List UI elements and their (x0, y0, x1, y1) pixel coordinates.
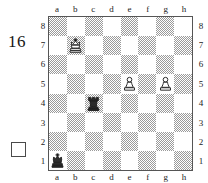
square-f1[interactable] (138, 151, 156, 170)
white-pawn[interactable] (121, 75, 138, 92)
square-h7[interactable] (174, 36, 192, 55)
rank-label-left-8: 8 (38, 21, 48, 31)
file-label-top-a: a (48, 4, 66, 14)
square-e4[interactable] (121, 94, 139, 113)
square-g6[interactable] (156, 55, 174, 74)
square-e1[interactable] (121, 151, 139, 170)
square-b1[interactable] (67, 151, 85, 170)
square-g8[interactable] (156, 17, 174, 36)
square-a2[interactable] (49, 132, 67, 151)
square-f8[interactable] (138, 17, 156, 36)
square-f3[interactable] (138, 113, 156, 132)
square-b6[interactable] (67, 55, 85, 74)
black-rook[interactable] (85, 95, 102, 112)
file-label-top-g: g (157, 4, 175, 14)
square-e2[interactable] (121, 132, 139, 151)
file-label-bottom-h: h (175, 172, 193, 182)
board-grid (49, 17, 192, 170)
rank-label-left-5: 5 (38, 79, 48, 89)
file-label-top-b: b (66, 4, 84, 14)
white-king[interactable] (67, 37, 84, 54)
square-c5[interactable] (85, 74, 103, 93)
file-label-bottom-e: e (121, 172, 139, 182)
rank-label-left-3: 3 (38, 118, 48, 128)
square-b3[interactable] (67, 113, 85, 132)
rank-label-right-1: 1 (196, 156, 206, 166)
file-label-bottom-f: f (139, 172, 157, 182)
file-label-top-h: h (175, 4, 193, 14)
square-h8[interactable] (174, 17, 192, 36)
square-a7[interactable] (49, 36, 67, 55)
square-g4[interactable] (156, 94, 174, 113)
square-c1[interactable] (85, 151, 103, 170)
file-labels-bottom: abcdefgh (48, 172, 193, 183)
rank-labels-left: 87654321 (38, 16, 48, 171)
square-f6[interactable] (138, 55, 156, 74)
rank-label-right-7: 7 (196, 40, 206, 50)
file-label-top-d: d (102, 4, 120, 14)
square-a4[interactable] (49, 94, 67, 113)
square-b4[interactable] (67, 94, 85, 113)
file-label-bottom-g: g (157, 172, 175, 182)
square-f2[interactable] (138, 132, 156, 151)
black-king[interactable] (49, 152, 66, 169)
square-c8[interactable] (85, 17, 103, 36)
square-d7[interactable] (103, 36, 121, 55)
rank-label-left-1: 1 (38, 156, 48, 166)
rank-label-left-7: 7 (38, 40, 48, 50)
square-a6[interactable] (49, 55, 67, 74)
square-d3[interactable] (103, 113, 121, 132)
square-b5[interactable] (67, 74, 85, 93)
rank-labels-right: 87654321 (196, 16, 206, 171)
square-f4[interactable] (138, 94, 156, 113)
square-g1[interactable] (156, 151, 174, 170)
rank-label-right-4: 4 (196, 98, 206, 108)
rank-label-right-6: 6 (196, 59, 206, 69)
square-h2[interactable] (174, 132, 192, 151)
square-g7[interactable] (156, 36, 174, 55)
square-a5[interactable] (49, 74, 67, 93)
square-c7[interactable] (85, 36, 103, 55)
square-g3[interactable] (156, 113, 174, 132)
square-c6[interactable] (85, 55, 103, 74)
square-h4[interactable] (174, 94, 192, 113)
chess-diagram: 16 abcdefgh abcdefgh 87654321 87654321 (0, 0, 208, 183)
square-b7[interactable] (67, 36, 85, 55)
square-c2[interactable] (85, 132, 103, 151)
square-b2[interactable] (67, 132, 85, 151)
square-e7[interactable] (121, 36, 139, 55)
square-f7[interactable] (138, 36, 156, 55)
square-d2[interactable] (103, 132, 121, 151)
square-d4[interactable] (103, 94, 121, 113)
chessboard (48, 16, 193, 171)
square-g5[interactable] (156, 74, 174, 93)
file-labels-top: abcdefgh (48, 4, 193, 15)
square-h6[interactable] (174, 55, 192, 74)
square-d8[interactable] (103, 17, 121, 36)
rank-label-right-8: 8 (196, 21, 206, 31)
square-f5[interactable] (138, 74, 156, 93)
square-e6[interactable] (121, 55, 139, 74)
square-a8[interactable] (49, 17, 67, 36)
diagram-number: 16 (8, 32, 42, 52)
white-pawn[interactable] (157, 75, 174, 92)
square-h1[interactable] (174, 151, 192, 170)
square-d6[interactable] (103, 55, 121, 74)
square-c3[interactable] (85, 113, 103, 132)
square-d1[interactable] (103, 151, 121, 170)
square-a3[interactable] (49, 113, 67, 132)
square-e5[interactable] (121, 74, 139, 93)
file-label-top-e: e (121, 4, 139, 14)
square-e3[interactable] (121, 113, 139, 132)
rank-label-right-3: 3 (196, 118, 206, 128)
square-d5[interactable] (103, 74, 121, 93)
square-g2[interactable] (156, 132, 174, 151)
square-h5[interactable] (174, 74, 192, 93)
square-h3[interactable] (174, 113, 192, 132)
square-a1[interactable] (49, 151, 67, 170)
square-c4[interactable] (85, 94, 103, 113)
rank-label-left-6: 6 (38, 59, 48, 69)
file-label-top-f: f (139, 4, 157, 14)
square-b8[interactable] (67, 17, 85, 36)
square-e8[interactable] (121, 17, 139, 36)
